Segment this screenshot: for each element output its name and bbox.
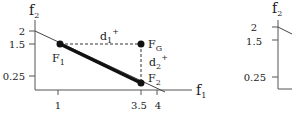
y-tick-label: 0.25 xyxy=(3,71,25,82)
y-axis-label: f2 xyxy=(29,2,39,20)
y-tick-label: 1.5 xyxy=(246,36,262,47)
y-tick-label: 2 xyxy=(251,22,257,33)
diagram-canvas: f2 f1 2 1.5 0.25 1 3.5 4 F1 FG F2 d1+ xyxy=(0,0,292,117)
d1-label: d1+ xyxy=(100,27,119,45)
x-tick-label: 4 xyxy=(155,100,161,111)
y-tick-label: 1.5 xyxy=(9,39,25,50)
pareto-front-line xyxy=(278,27,292,34)
y-tick-label: 2 xyxy=(19,26,25,37)
point-f1 xyxy=(57,41,64,48)
left-panel: f2 f1 2 1.5 0.25 1 3.5 4 F1 FG F2 d1+ xyxy=(3,2,207,111)
x-axis-label: f1 xyxy=(196,82,206,100)
point-f2 xyxy=(138,80,145,87)
d2-label: d2+ xyxy=(149,53,168,71)
x-tick-label: 1 xyxy=(55,100,61,111)
solution-segment xyxy=(60,44,141,83)
point-fg xyxy=(138,41,145,48)
f1-label: F1 xyxy=(52,52,65,67)
y-tick-label: 0.25 xyxy=(244,72,266,83)
right-panel: f2 2 1.5 0.25 xyxy=(244,0,292,89)
fg-label: FG xyxy=(148,38,162,53)
x-tick-label: 3.5 xyxy=(131,100,147,111)
y-axis-label: f2 xyxy=(272,0,282,18)
f2-label: F2 xyxy=(148,72,161,87)
